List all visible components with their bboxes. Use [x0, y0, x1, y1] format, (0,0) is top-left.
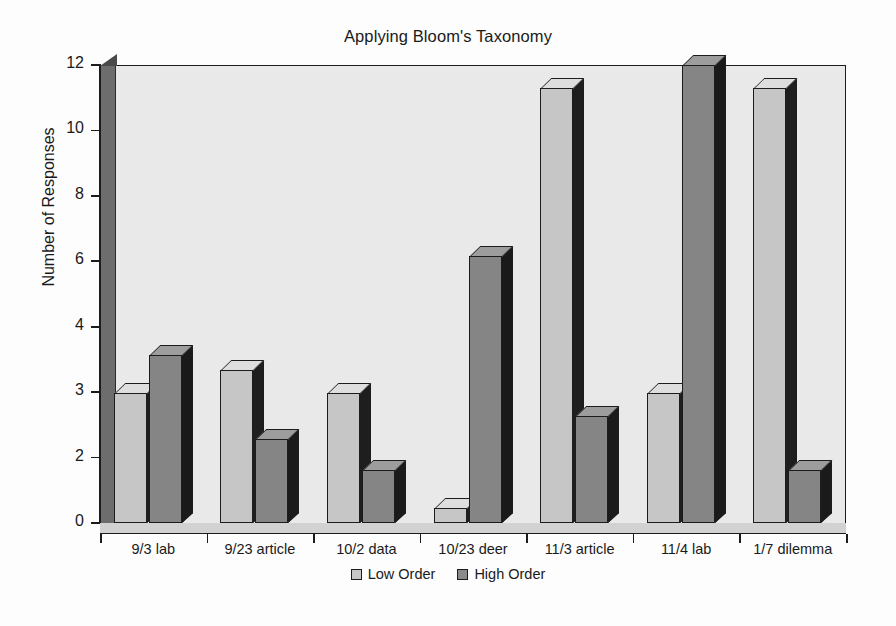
legend-swatch-high-order	[457, 569, 468, 580]
x-axis-tick	[420, 534, 422, 543]
bar-low-order	[434, 508, 467, 523]
x-axis-category-label: 1/7 dilemma	[753, 541, 832, 557]
bar-high-order	[788, 470, 821, 523]
bar-high-order	[469, 256, 502, 523]
bar-high-order	[362, 470, 395, 523]
y-axis-tick-label: 12	[28, 54, 84, 72]
bar-low-order	[327, 393, 360, 523]
x-axis-tick	[526, 534, 528, 543]
y-axis-tick	[91, 391, 99, 393]
bar-front-face	[327, 393, 360, 523]
x-axis-tick	[739, 534, 741, 543]
x-axis-category-label: 11/3 article	[545, 541, 615, 557]
x-axis-tick	[100, 534, 102, 543]
y-axis-tick	[91, 522, 99, 524]
bar-low-order	[647, 393, 680, 523]
y-axis-tick-label: 6	[28, 250, 84, 268]
y-axis-tick	[91, 130, 99, 132]
y-axis-tick	[91, 457, 99, 459]
bar-side-face	[502, 246, 513, 523]
bar-front-face	[114, 393, 147, 523]
bar-front-face	[362, 470, 395, 523]
y-axis-tick	[91, 326, 99, 328]
bar-front-face	[647, 393, 680, 523]
bar-front-face	[682, 65, 715, 523]
bar-chart: Applying Bloom's Taxonomy Number of Resp…	[0, 0, 896, 626]
bar-front-face	[753, 88, 786, 523]
bar-side-face	[288, 429, 299, 523]
bar-side-face	[608, 406, 619, 523]
bar-front-face	[434, 508, 467, 523]
x-axis-category-label: 10/23 deer	[438, 541, 507, 557]
bar-side-face	[182, 345, 193, 523]
bar-low-order	[753, 88, 786, 523]
x-axis-category-label: 9/23 article	[224, 541, 295, 557]
y-axis-tick-label: 3	[28, 381, 84, 399]
x-axis-category-label: 11/4 lab	[661, 541, 712, 557]
y-axis-tick	[91, 260, 99, 262]
y-axis-tick-label: 4	[28, 316, 84, 334]
chart-legend: Low OrderHigh Order	[0, 566, 896, 582]
bar-high-order	[149, 355, 182, 523]
bar-front-face	[575, 416, 608, 523]
y-axis-tick-label: 8	[28, 185, 84, 203]
legend-swatch-low-order	[351, 569, 362, 580]
y-axis-tick-label: 10	[28, 119, 84, 137]
bar-front-face	[788, 470, 821, 523]
x-axis-tick	[207, 534, 209, 543]
x-axis-tick	[633, 534, 635, 543]
legend-label: High Order	[474, 566, 545, 582]
plot-area	[100, 65, 846, 523]
bar-front-face	[149, 355, 182, 523]
x-axis-category-label: 9/3 lab	[132, 541, 176, 557]
bar-side-face	[786, 78, 797, 523]
y-axis-tick	[91, 195, 99, 197]
legend-label: Low Order	[368, 566, 436, 582]
bar-high-order	[255, 439, 288, 523]
y-axis-tick-label: 2	[28, 447, 84, 465]
bar-side-face	[715, 55, 726, 523]
plot-floor	[100, 523, 846, 534]
bar-low-order	[220, 370, 253, 523]
y-axis-tick-labels: 1210864320	[22, 0, 84, 626]
y-axis-tick	[91, 64, 99, 66]
x-axis-tick	[313, 534, 315, 543]
legend-item[interactable]: Low Order	[351, 566, 436, 582]
bar-low-order	[114, 393, 147, 523]
y-axis-tick-label: 0	[28, 512, 84, 530]
chart-title: Applying Bloom's Taxonomy	[0, 27, 896, 46]
bar-low-order	[540, 88, 573, 523]
bar-front-face	[540, 88, 573, 523]
bar-front-face	[255, 439, 288, 523]
x-axis-tick	[846, 534, 848, 543]
bar-high-order	[682, 65, 715, 523]
bar-front-face	[220, 370, 253, 523]
x-axis-category-label: 10/2 data	[336, 541, 396, 557]
legend-item[interactable]: High Order	[457, 566, 545, 582]
bar-front-face	[469, 256, 502, 523]
bar-high-order	[575, 416, 608, 523]
